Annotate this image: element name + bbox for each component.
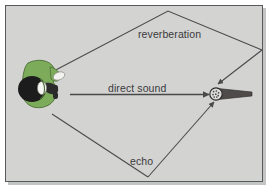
label-direct-sound: direct sound [108, 82, 166, 94]
person-finger-1 [53, 85, 58, 92]
label-echo: echo [130, 155, 153, 167]
reverberation-path-return [218, 50, 262, 84]
microphone [205, 82, 255, 106]
reverberation-path [50, 11, 262, 73]
label-reverberation: reverberation [138, 28, 201, 40]
headphone-earcup [37, 81, 46, 94]
acoustics-diagram: reverberation direct sound echo [0, 0, 273, 193]
echo-path-return [148, 102, 214, 177]
microphone-body [218, 89, 252, 100]
echo-path [52, 114, 148, 177]
person-finger-2 [53, 92, 58, 99]
listener-person [16, 57, 68, 113]
